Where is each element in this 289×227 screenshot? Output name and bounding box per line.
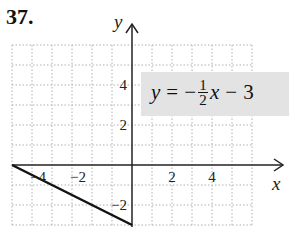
eq-sign: − — [184, 80, 196, 105]
eq-equals: = — [166, 80, 178, 105]
eq-frac-num: 1 — [199, 78, 207, 92]
eq-lhs: y — [151, 80, 160, 105]
x-tick-2: 2 — [168, 169, 176, 185]
y-tick-2: 2 — [120, 117, 128, 133]
y-tick-4: 4 — [120, 77, 128, 93]
eq-var: x — [210, 80, 219, 105]
x-axis-label: x — [271, 173, 281, 194]
equation-label: y = − 1 2 x − 3 — [151, 78, 254, 107]
y-tick-neg2: −2 — [111, 197, 127, 213]
x-tick-4: 4 — [208, 169, 216, 185]
axes — [12, 24, 283, 227]
y-axis-label: y — [112, 11, 123, 32]
eq-frac-den: 2 — [199, 93, 207, 107]
eq-const: 3 — [243, 80, 254, 105]
eq-fraction: 1 2 — [198, 78, 208, 107]
x-tick-neg2: −2 — [70, 169, 86, 185]
eq-op: − — [225, 80, 237, 105]
x-tick-neg4: −4 — [30, 169, 46, 185]
